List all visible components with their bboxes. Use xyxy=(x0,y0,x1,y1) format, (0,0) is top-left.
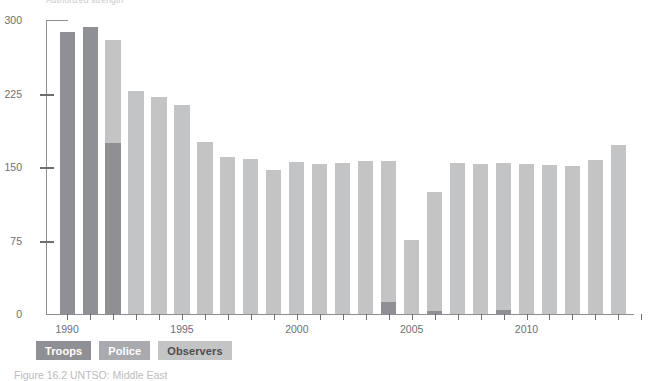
x-tick xyxy=(182,314,183,320)
bar-segment-observers xyxy=(496,163,511,310)
x-tick xyxy=(458,314,459,320)
bar-1994[interactable] xyxy=(151,97,166,314)
bar-segment-observers xyxy=(312,164,327,314)
x-tick xyxy=(159,314,160,320)
x-tick xyxy=(618,314,619,320)
bar-segment-observers xyxy=(450,163,465,314)
x-tick xyxy=(527,314,528,320)
bar-segment-troops xyxy=(381,302,396,314)
legend-item-troops[interactable]: Troops xyxy=(36,341,91,360)
bar-segment-troops xyxy=(105,143,120,315)
bar-segment-observers xyxy=(358,161,373,314)
x-tick xyxy=(366,314,367,320)
bar-segment-observers xyxy=(565,166,580,314)
x-tick xyxy=(67,314,68,320)
x-tick xyxy=(251,314,252,320)
bar-2003[interactable] xyxy=(358,161,373,314)
bar-2013[interactable] xyxy=(588,160,603,314)
bar-2011[interactable] xyxy=(542,165,557,314)
bar-1990[interactable] xyxy=(60,32,75,314)
bar-segment-observers xyxy=(243,159,258,314)
bar-1991[interactable] xyxy=(83,27,98,314)
x-tick xyxy=(412,314,413,320)
bar-segment-observers xyxy=(381,161,396,302)
bar-segment-observers xyxy=(542,165,557,314)
x-tick xyxy=(549,314,550,320)
bar-2004[interactable] xyxy=(381,161,396,314)
bar-segment-observers xyxy=(335,163,350,314)
x-axis-label-2010: 2010 xyxy=(515,323,538,335)
bar-2008[interactable] xyxy=(473,164,488,314)
y-axis-label-225: 225 xyxy=(4,89,22,99)
bar-1993[interactable] xyxy=(128,91,143,314)
legend-item-police[interactable]: Police xyxy=(99,341,150,360)
bar-segment-observers xyxy=(220,157,235,314)
x-axis-line xyxy=(46,314,634,315)
x-axis-label-1990: 1990 xyxy=(55,323,78,335)
x-tick xyxy=(572,314,573,320)
y-tick-75 xyxy=(40,241,54,243)
bar-segment-observers xyxy=(197,142,212,314)
bar-1996[interactable] xyxy=(197,142,212,314)
top-clipped-text: Authorized strength xyxy=(46,0,124,5)
legend-item-observers[interactable]: Observers xyxy=(158,341,231,360)
bar-1999[interactable] xyxy=(266,170,281,314)
bar-segment-observers xyxy=(289,162,304,314)
bar-segment-observers xyxy=(588,160,603,314)
bar-segment-observers xyxy=(427,192,442,311)
bar-2010[interactable] xyxy=(519,164,534,314)
bar-segment-observers xyxy=(611,145,626,314)
y-tick-300 xyxy=(46,20,68,21)
x-axis-label-2000: 2000 xyxy=(285,323,308,335)
x-tick xyxy=(641,314,642,320)
x-tick xyxy=(228,314,229,320)
x-tick xyxy=(113,314,114,320)
bar-2006[interactable] xyxy=(427,192,442,314)
bar-2007[interactable] xyxy=(450,163,465,314)
x-tick xyxy=(481,314,482,320)
x-tick xyxy=(320,314,321,320)
bar-segment-observers xyxy=(519,164,534,314)
bar-1995[interactable] xyxy=(174,105,189,314)
y-axis-label-75: 75 xyxy=(10,236,22,246)
x-tick xyxy=(504,314,505,320)
x-tick xyxy=(274,314,275,320)
x-tick xyxy=(90,314,91,320)
bar-2012[interactable] xyxy=(565,166,580,314)
bar-2001[interactable] xyxy=(312,164,327,314)
bar-segment-observers xyxy=(128,91,143,314)
bar-1992[interactable] xyxy=(105,40,120,314)
bar-1997[interactable] xyxy=(220,157,235,314)
bar-segment-troops xyxy=(60,32,75,314)
x-axis-label-2005: 2005 xyxy=(400,323,423,335)
bar-segment-observers xyxy=(404,240,419,314)
y-axis-label-150: 150 xyxy=(4,162,22,172)
x-tick xyxy=(136,314,137,320)
bar-segment-troops xyxy=(83,27,98,314)
x-tick xyxy=(205,314,206,320)
x-tick xyxy=(595,314,596,320)
bar-segment-observers xyxy=(473,164,488,314)
figure-caption: Figure 16.2 UNTSO: Middle East xyxy=(14,369,167,381)
bar-2009[interactable] xyxy=(496,163,511,314)
bar-segment-observers xyxy=(266,170,281,314)
x-tick xyxy=(389,314,390,320)
bar-segment-observers xyxy=(151,97,166,314)
chart-plot-area: 300225150750 19901995200020052010 xyxy=(46,20,634,314)
bar-1998[interactable] xyxy=(243,159,258,314)
bar-segment-observers xyxy=(174,105,189,314)
x-axis-label-1995: 1995 xyxy=(170,323,193,335)
y-tick-225 xyxy=(40,94,54,96)
bar-2014[interactable] xyxy=(611,145,626,314)
figure-unts0-middle-east: Authorized strength 300225150750 1990199… xyxy=(0,0,652,381)
chart-legend: TroopsPoliceObservers xyxy=(36,341,232,360)
bar-segment-observers xyxy=(105,40,120,143)
bar-2000[interactable] xyxy=(289,162,304,314)
y-axis-label-0: 0 xyxy=(16,309,22,319)
x-tick xyxy=(343,314,344,320)
y-axis-label-300: 300 xyxy=(4,15,22,25)
x-tick xyxy=(297,314,298,320)
bar-2002[interactable] xyxy=(335,163,350,314)
x-tick xyxy=(435,314,436,320)
bar-2005[interactable] xyxy=(404,240,419,314)
